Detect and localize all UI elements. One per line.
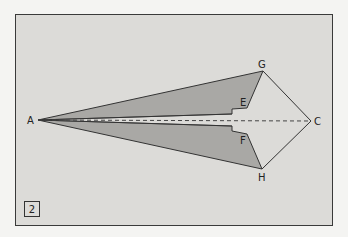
lower-flap bbox=[38, 120, 262, 169]
label-F: F bbox=[240, 135, 246, 146]
step-number-badge: 2 bbox=[24, 201, 40, 217]
kite-edge-upper bbox=[263, 71, 311, 121]
kite-edge-lower bbox=[262, 121, 311, 169]
upper-flap bbox=[38, 71, 263, 120]
label-H: H bbox=[258, 172, 266, 183]
label-G: G bbox=[258, 59, 266, 70]
label-C: C bbox=[314, 116, 321, 127]
fold-diagram: A G C H E F bbox=[0, 0, 348, 237]
label-A: A bbox=[27, 115, 34, 126]
label-E: E bbox=[240, 97, 246, 108]
